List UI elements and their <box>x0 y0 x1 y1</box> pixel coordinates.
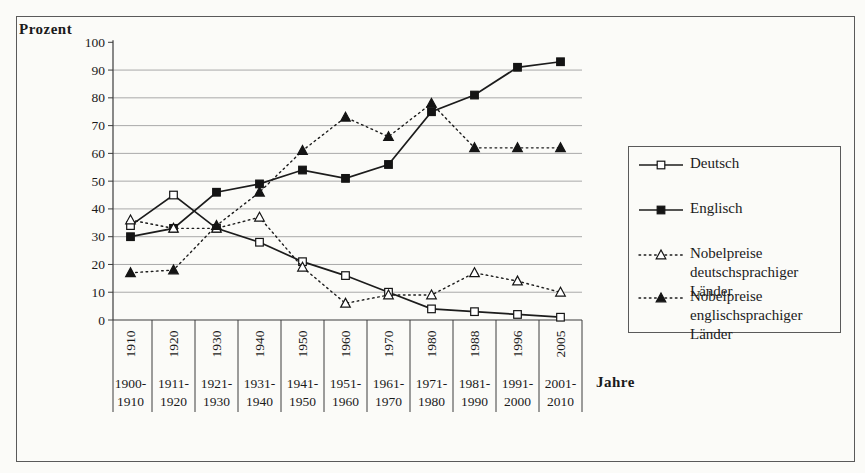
series-nobelpreise-deutschsprachiger-l-nder <box>126 212 566 307</box>
legend-item-deutsch: Deutsch <box>637 154 739 173</box>
data-point-marker <box>657 206 665 214</box>
gridlines <box>113 70 582 320</box>
data-point-marker <box>341 112 351 121</box>
data-point-marker <box>427 98 437 107</box>
legend-marker-icon <box>637 202 685 218</box>
legend-item-label: Nobelpreise englischsprachiger Länder <box>690 287 840 344</box>
data-point-marker <box>557 58 565 66</box>
data-point-marker <box>213 188 221 196</box>
x-tick-label-range-end: 1930 <box>203 394 230 409</box>
series-englisch <box>127 58 565 241</box>
legend-marker-icon <box>637 157 685 173</box>
data-point-marker <box>514 311 522 319</box>
data-point-marker <box>514 63 522 71</box>
y-tick-label: 70 <box>92 118 106 133</box>
data-point-marker <box>471 308 479 316</box>
legend-marker-icon <box>637 290 685 306</box>
data-point-marker <box>126 268 136 277</box>
data-point-marker <box>656 293 666 302</box>
x-tick-label-year: 1920 <box>166 330 181 357</box>
x-axis-cells: 1910192019301940195019601970198019881996… <box>113 320 582 412</box>
x-tick-label-range-start: 1931- <box>244 376 276 391</box>
data-point-marker <box>427 290 437 299</box>
x-tick-label-range-end: 1980 <box>418 394 445 409</box>
x-tick-label-year: 2005 <box>553 330 568 357</box>
series-line <box>131 103 561 272</box>
x-tick-label-range-end: 2000 <box>504 394 531 409</box>
y-tick-label: 80 <box>92 90 106 105</box>
y-tick-label: 30 <box>92 229 106 244</box>
x-tick-label-year: 1996 <box>510 330 525 357</box>
x-tick-label-range-end: 1920 <box>160 394 187 409</box>
x-tick-label-year: 1980 <box>424 330 439 357</box>
data-point-marker <box>428 108 436 116</box>
data-point-marker <box>428 305 436 313</box>
y-axis: 0102030405060708090100 <box>85 35 113 328</box>
y-tick-label: 10 <box>92 285 106 300</box>
data-point-marker <box>127 233 135 241</box>
data-point-marker <box>298 146 308 155</box>
x-tick-label-range-start: 1941- <box>287 376 319 391</box>
data-point-marker <box>256 238 264 246</box>
series-line <box>131 62 561 237</box>
x-tick-label-year: 1960 <box>338 330 353 357</box>
x-tick-label-year: 1988 <box>467 330 482 357</box>
data-point-marker <box>385 161 393 169</box>
legend-item-label: Deutsch <box>690 154 739 173</box>
x-tick-label-range-start: 1900- <box>115 376 147 391</box>
legend-item-label: Englisch <box>690 199 743 218</box>
y-tick-label: 60 <box>92 146 106 161</box>
x-tick-label-range-end: 1950 <box>289 394 316 409</box>
data-point-marker <box>657 161 665 169</box>
data-point-marker <box>513 276 523 285</box>
x-tick-label-range-start: 1911- <box>158 376 189 391</box>
data-point-marker <box>126 215 136 224</box>
x-tick-label-range-end: 1960 <box>332 394 359 409</box>
data-point-marker <box>299 166 307 174</box>
y-tick-label: 0 <box>98 313 105 328</box>
data-point-marker <box>255 187 265 196</box>
y-tick-label: 50 <box>92 174 106 189</box>
legend-item-nobelpreise-englischsprachiger-l-nder: Nobelpreise englischsprachiger Länder <box>637 287 840 344</box>
legend-item-englisch: Englisch <box>637 199 743 218</box>
x-tick-label-year: 1930 <box>209 330 224 357</box>
x-tick-label-range-end: 2010 <box>547 394 574 409</box>
x-tick-label-year: 1950 <box>295 330 310 357</box>
x-tick-label-range-start: 1961- <box>373 376 405 391</box>
data-point-marker <box>255 212 265 221</box>
data-point-marker <box>471 91 479 99</box>
data-point-marker <box>470 268 480 277</box>
x-tick-label-range-start: 1951- <box>330 376 362 391</box>
data-point-marker <box>656 250 666 259</box>
x-tick-label-range-end: 1970 <box>375 394 402 409</box>
x-tick-label-range-start: 1971- <box>416 376 448 391</box>
y-tick-label: 40 <box>92 201 106 216</box>
y-tick-label: 90 <box>92 63 106 78</box>
y-tick-label: 20 <box>92 257 106 272</box>
x-tick-label-range-start: 1981- <box>459 376 491 391</box>
x-tick-label-range-end: 1990 <box>461 394 488 409</box>
x-tick-label-range-start: 2001- <box>545 376 577 391</box>
series-line <box>131 217 561 303</box>
x-tick-label-range-start: 1991- <box>502 376 534 391</box>
x-tick-label-year: 1970 <box>381 330 396 357</box>
x-tick-label-range-end: 1940 <box>246 394 273 409</box>
data-point-marker <box>170 191 178 199</box>
data-point-marker <box>342 272 350 280</box>
legend-marker-icon <box>637 247 685 263</box>
x-tick-label-range-end: 1910 <box>117 394 144 409</box>
data-point-marker <box>557 313 565 321</box>
x-tick-label-range-start: 1921- <box>201 376 233 391</box>
data-point-marker <box>384 132 394 141</box>
legend: DeutschEnglischNobelpreise deutschsprach… <box>628 146 841 333</box>
y-tick-label: 100 <box>85 35 106 50</box>
data-point-marker <box>342 175 350 183</box>
x-tick-label-year: 1940 <box>252 330 267 357</box>
x-tick-label-year: 1910 <box>123 330 138 357</box>
